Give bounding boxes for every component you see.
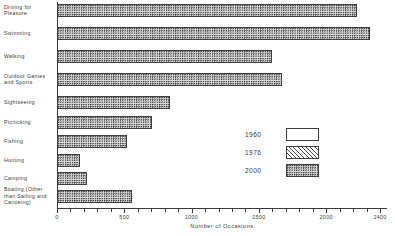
bar-segment-2000 xyxy=(57,172,87,185)
category-label-line: Pleasure xyxy=(4,10,56,16)
category-label: Camping xyxy=(4,175,56,181)
bar-segment-2000 xyxy=(57,154,80,167)
category-label-line: Picnicking xyxy=(4,119,56,125)
legend-swatch-1960 xyxy=(286,128,319,141)
category-label-line: Camping xyxy=(4,175,56,181)
bar-segment-2000 xyxy=(57,116,152,129)
x-tick-minor xyxy=(138,208,139,212)
category-label-line: Sightseeing xyxy=(4,99,56,105)
x-tick-minor xyxy=(111,208,112,212)
legend-label: 2000 xyxy=(245,167,261,174)
x-tick-minor xyxy=(286,208,287,212)
bar-segment-2000 xyxy=(57,190,132,203)
category-label-line: Canoeing) xyxy=(4,199,56,205)
x-tick-minor xyxy=(232,208,233,212)
x-tick-minor xyxy=(84,208,85,212)
bar-segment-2000 xyxy=(57,96,170,109)
category-label-line: Walking xyxy=(4,53,56,59)
category-label: Picnicking xyxy=(4,119,56,125)
legend-swatch-2000 xyxy=(286,164,319,177)
x-tick-major xyxy=(259,208,260,213)
x-tick-minor xyxy=(340,208,341,212)
bar-segment-2000 xyxy=(57,50,272,63)
bar-segment-2000 xyxy=(57,73,282,86)
category-label-line: Hunting xyxy=(4,157,56,163)
x-tick-label: 2000 xyxy=(320,214,333,220)
stacked-bar-chart: Driving forPleasureSwimmingWalkingOutdoo… xyxy=(0,0,395,236)
x-axis-title: Number of Occasions xyxy=(57,223,387,229)
category-label-line: Fishing xyxy=(4,138,56,144)
x-tick-label: 0 xyxy=(55,214,58,220)
legend-label: 1960 xyxy=(245,131,261,138)
x-tick-minor xyxy=(299,208,300,212)
x-tick-minor xyxy=(353,208,354,212)
x-tick-major xyxy=(57,208,58,213)
category-label: Walking xyxy=(4,53,56,59)
x-tick-minor xyxy=(97,208,98,212)
category-label: Boating (Otherthan Sailing andCanoeing) xyxy=(4,186,56,205)
legend-label: 1976 xyxy=(245,149,261,156)
x-tick-minor xyxy=(205,208,206,212)
x-tick-minor xyxy=(272,208,273,212)
plot-area xyxy=(57,0,395,208)
category-label: Sightseeing xyxy=(4,99,56,105)
x-tick-minor xyxy=(70,208,71,212)
x-axis-line xyxy=(57,208,387,209)
x-tick-minor xyxy=(245,208,246,212)
category-label: Hunting xyxy=(4,157,56,163)
legend-swatch-1976 xyxy=(286,146,319,159)
x-tick-label: 1000 xyxy=(185,214,198,220)
x-tick-label: 2400 xyxy=(373,214,386,220)
x-tick-major xyxy=(380,208,381,213)
bar-segment-2000 xyxy=(57,4,357,17)
x-tick-minor xyxy=(367,208,368,212)
x-tick-minor xyxy=(313,208,314,212)
category-label: Outdoor Gamesand Sports xyxy=(4,73,56,86)
category-label-line: Swimming xyxy=(4,30,56,36)
x-tick-minor xyxy=(165,208,166,212)
bar-segment-2000 xyxy=(57,27,370,40)
x-tick-minor xyxy=(151,208,152,212)
category-label: Driving forPleasure xyxy=(4,4,56,17)
category-label-line: and Sports xyxy=(4,79,56,85)
x-tick-major xyxy=(192,208,193,213)
x-tick-major xyxy=(124,208,125,213)
x-tick-minor xyxy=(178,208,179,212)
category-label: Fishing xyxy=(4,138,56,144)
x-tick-label: 500 xyxy=(119,214,129,220)
x-tick-major xyxy=(326,208,327,213)
bar-segment-2000 xyxy=(57,135,127,148)
x-tick-minor xyxy=(219,208,220,212)
category-label: Swimming xyxy=(4,30,56,36)
x-tick-label: 1500 xyxy=(252,214,265,220)
